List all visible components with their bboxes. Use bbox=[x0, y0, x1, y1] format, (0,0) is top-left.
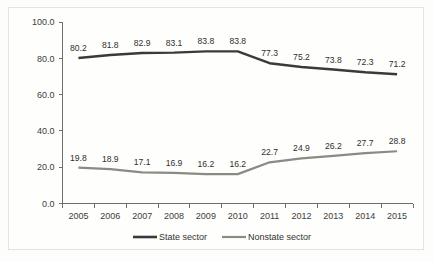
series-lines bbox=[78, 51, 397, 174]
data-label: 71.2 bbox=[389, 59, 406, 69]
y-tick-label: 20.0 bbox=[37, 162, 55, 172]
y-tick-label: 100.0 bbox=[32, 17, 55, 27]
x-tick-label: 2012 bbox=[291, 211, 311, 221]
data-label: 27.7 bbox=[357, 138, 374, 148]
data-label: 26.2 bbox=[325, 141, 342, 151]
y-tick-labels: 0.020.040.060.080.0100.0 bbox=[32, 17, 55, 209]
data-label: 17.1 bbox=[134, 157, 151, 167]
x-tick-label: 2005 bbox=[68, 211, 88, 221]
data-label: 77.3 bbox=[261, 48, 278, 58]
data-label: 24.9 bbox=[293, 143, 310, 153]
line-chart: 0.020.040.060.080.0100.0 200520062007200… bbox=[0, 0, 434, 262]
x-tick-label: 2011 bbox=[260, 211, 279, 221]
series-line-state-sector bbox=[78, 51, 397, 74]
y-tick-label: 40.0 bbox=[37, 126, 55, 136]
y-tick-label: 0.0 bbox=[42, 199, 55, 209]
data-label: 16.9 bbox=[166, 158, 183, 168]
data-label: 75.2 bbox=[293, 52, 310, 62]
data-label: 83.1 bbox=[166, 38, 183, 48]
x-tick-marks bbox=[63, 204, 414, 208]
y-tick-marks bbox=[59, 22, 63, 204]
data-label: 16.2 bbox=[198, 159, 215, 169]
data-label: 19.8 bbox=[70, 153, 87, 163]
x-tick-label: 2015 bbox=[387, 211, 407, 221]
legend-label: State sector bbox=[159, 232, 207, 242]
y-tick-label: 60.0 bbox=[37, 90, 55, 100]
data-label: 83.8 bbox=[198, 36, 215, 46]
y-tick-label: 80.0 bbox=[37, 54, 55, 64]
x-tick-labels: 2005200620072008200920102011201220132014… bbox=[68, 211, 407, 221]
data-label: 82.9 bbox=[134, 38, 151, 48]
data-label: 80.2 bbox=[70, 43, 87, 53]
x-tick-label: 2013 bbox=[323, 211, 343, 221]
data-label: 28.8 bbox=[389, 136, 406, 146]
series-data-labels: 80.281.882.983.183.883.877.375.273.872.3… bbox=[70, 36, 406, 169]
legend-label: Nonstate sector bbox=[248, 232, 311, 242]
x-tick-label: 2010 bbox=[228, 211, 248, 221]
x-tick-label: 2007 bbox=[132, 211, 152, 221]
x-tick-label: 2014 bbox=[355, 211, 375, 221]
data-label: 22.7 bbox=[261, 147, 278, 157]
data-label: 18.9 bbox=[102, 154, 119, 164]
chart-figure: 0.020.040.060.080.0100.0 200520062007200… bbox=[0, 0, 434, 262]
data-label: 83.8 bbox=[229, 36, 246, 46]
data-label: 16.2 bbox=[229, 159, 246, 169]
x-tick-label: 2006 bbox=[100, 211, 120, 221]
x-tick-label: 2009 bbox=[196, 211, 216, 221]
data-label: 73.8 bbox=[325, 55, 342, 65]
x-tick-label: 2008 bbox=[164, 211, 184, 221]
chart-legend: State sectorNonstate sector bbox=[133, 232, 311, 242]
data-label: 72.3 bbox=[357, 57, 374, 67]
data-label: 81.8 bbox=[102, 40, 119, 50]
